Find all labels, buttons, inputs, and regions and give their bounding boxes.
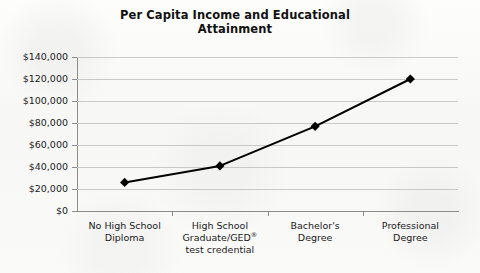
- income-series-line: [77, 57, 458, 211]
- data-point-marker: [120, 178, 129, 187]
- x-axis-tick-mark: [172, 211, 173, 216]
- x-axis-category-label-line: test credential: [186, 244, 255, 255]
- y-axis-tick-label: $20,000: [2, 184, 68, 194]
- x-axis-category-label-line: Degree: [298, 232, 333, 243]
- x-axis-category-label: Bachelor'sDegree: [268, 220, 363, 244]
- y-axis-tick-label: $140,000: [2, 52, 68, 62]
- data-point-marker: [406, 74, 415, 83]
- y-axis-tick-label: $120,000: [2, 74, 68, 84]
- y-axis-tick-label: $60,000: [2, 140, 68, 150]
- x-axis-category-label-line: High School: [192, 220, 248, 231]
- x-axis-category-label-line: Professional: [382, 220, 439, 231]
- y-axis-tick-label: $0: [2, 206, 68, 216]
- chart-title-line-2: Attainment: [198, 22, 272, 36]
- registered-trademark-symbol: ®: [251, 231, 258, 239]
- x-axis-category-label-line: Bachelor's: [290, 220, 339, 231]
- plot-area: [77, 57, 458, 211]
- x-axis-category-label-line: Graduate/GED®: [182, 232, 257, 243]
- y-axis-tick-label: $100,000: [2, 96, 68, 106]
- x-axis-category-label-line: Diploma: [105, 232, 145, 243]
- series-polyline: [125, 79, 411, 182]
- x-axis-category-label: ProfessionalDegree: [363, 220, 458, 244]
- x-axis-category-label: High SchoolGraduate/GED®test credential: [172, 220, 267, 256]
- data-point-marker: [311, 122, 320, 131]
- x-axis-tick-mark: [363, 211, 364, 216]
- x-axis-tick-mark: [268, 211, 269, 216]
- chart-title-line-1: Per Capita Income and Educational: [120, 8, 350, 22]
- x-axis-category-label-line: Degree: [393, 232, 428, 243]
- chart-title: Per Capita Income and Educational Attain…: [70, 8, 400, 37]
- data-point-marker: [215, 161, 224, 170]
- y-axis-tick-label: $80,000: [2, 118, 68, 128]
- x-axis-category-label-line: No High School: [88, 220, 160, 231]
- x-axis-category-label: No High SchoolDiploma: [77, 220, 172, 244]
- per-capita-income-line-chart: Per Capita Income and Educational Attain…: [0, 0, 480, 273]
- y-axis-tick-label: $40,000: [2, 162, 68, 172]
